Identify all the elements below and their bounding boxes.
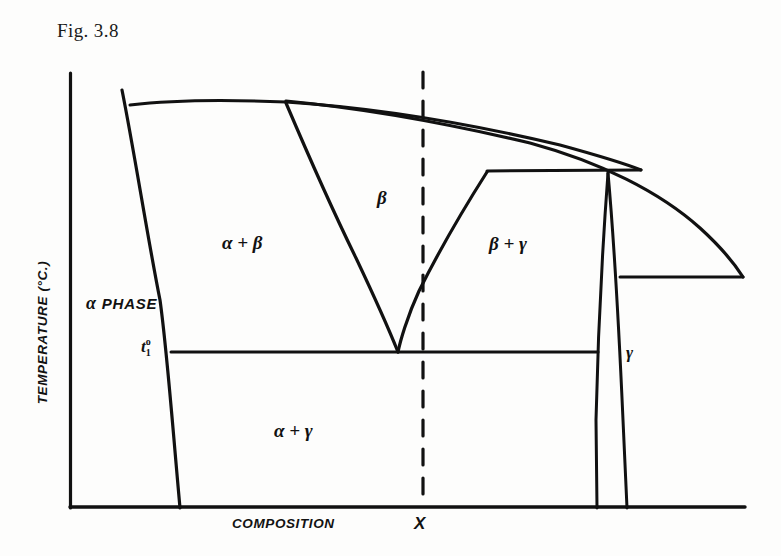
region-label-alpha-beta: α + β [222, 232, 263, 254]
region-label-beta: β [377, 187, 387, 209]
y-axis-label: TEMPERATURE (°C.) [35, 233, 50, 433]
gamma-right-boundary [608, 173, 627, 508]
phase-diagram-plot [0, 0, 781, 556]
x-axis-label: COMPOSITION [232, 516, 335, 531]
region-label-alpha-gamma: α + γ [274, 420, 313, 442]
alpha-beta-boundary [286, 103, 398, 352]
composition-x-marker: X [414, 514, 426, 534]
t1-superscript: o [146, 336, 151, 347]
alpha-glyph: α [86, 293, 97, 313]
upper-solidus-curve [130, 100, 641, 170]
region-label-gamma: γ [626, 343, 633, 363]
eutectoid-temperature-label: to1 [141, 336, 151, 358]
peritectic-horizontal-line [487, 170, 641, 171]
alpha-phase-text: PHASE [102, 295, 158, 312]
region-label-alpha-phase: α PHASE [86, 293, 157, 314]
beta-gamma-boundary [398, 172, 487, 352]
gamma-left-boundary [596, 173, 608, 508]
region-label-beta-gamma: β + γ [489, 233, 527, 255]
figure-page: Fig. 3.8 [0, 0, 781, 556]
t1-subscript: 1 [146, 347, 151, 358]
